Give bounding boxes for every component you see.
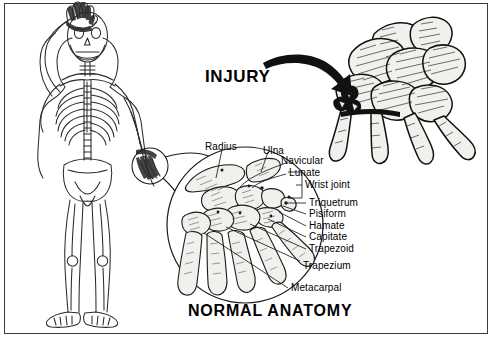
label-radius: Radius — [205, 142, 237, 152]
label-pisiform: Pisiform — [309, 209, 346, 219]
label-metacarpal: Metacarpal — [291, 283, 341, 293]
label-navicular: Navicular — [281, 156, 324, 166]
label-lunate: Lunate — [289, 168, 320, 178]
label-trapezoid: Trapezoid — [309, 244, 354, 254]
medical-illustration-figure: INJURY NORMAL ANATOMY Radius Ulna Navicu… — [0, 0, 493, 340]
label-hamate: Hamate — [309, 221, 345, 231]
label-capitate: Capitate — [309, 232, 347, 242]
label-triquetrum: Triquetrum — [309, 198, 358, 208]
label-trapezium: Trapezium — [303, 261, 351, 271]
injury-title: INJURY — [205, 68, 270, 85]
normal-anatomy-title: NORMAL ANATOMY — [188, 303, 352, 319]
label-wrist-joint: Wrist joint — [305, 180, 350, 190]
figure-border-frame — [4, 3, 488, 334]
